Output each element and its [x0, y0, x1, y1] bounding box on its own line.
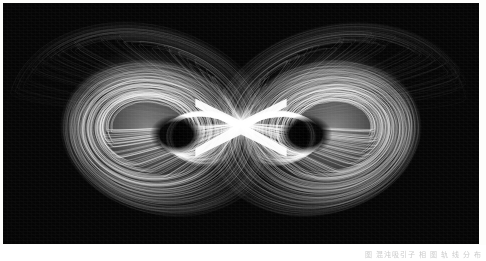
plot-plate	[3, 3, 479, 244]
attractor-figure: 图 混沌吸引子 相 图 轨 线 分 布	[0, 0, 486, 261]
caption-watermark-text: 图 混沌吸引子 相 图 轨 线 分 布	[365, 251, 482, 260]
attractor-plot	[3, 3, 479, 244]
caption-strip: 图 混沌吸引子 相 图 轨 线 分 布	[0, 245, 486, 261]
plate-bottom-hairline	[3, 243, 479, 244]
